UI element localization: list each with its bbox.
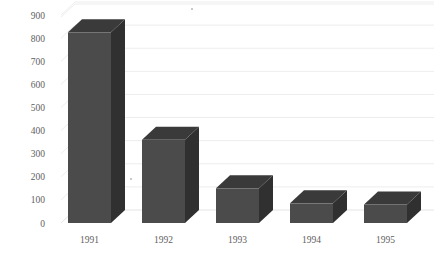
bar-front-face [68, 32, 111, 223]
bar-front-face [142, 140, 185, 223]
x-tick-label-1991: 1991 [80, 235, 99, 245]
bar-1991 [68, 19, 125, 223]
y-tick-label-300: 300 [31, 149, 46, 159]
bar-front-face [216, 188, 259, 223]
x-tick-label-1993: 1993 [228, 235, 247, 245]
y-tick-label-800: 800 [31, 34, 46, 44]
bar-1992 [142, 127, 199, 223]
y-tick-label-600: 600 [31, 80, 46, 90]
scan-speck [191, 8, 193, 10]
bar-front-face [290, 203, 333, 223]
bar-side-face [111, 19, 125, 223]
bar-1993 [216, 175, 273, 223]
chart-canvas: 0100200300400500600700800900 19911992199… [0, 0, 434, 256]
y-tick-label-900: 900 [31, 11, 46, 21]
y-tick-label-500: 500 [31, 103, 46, 113]
y-tick-label-0: 0 [40, 219, 45, 229]
bar-front-face [364, 205, 407, 223]
y-tick-label-700: 700 [31, 57, 46, 67]
scan-speck [130, 178, 132, 180]
x-tick-label-1995: 1995 [376, 235, 395, 245]
x-tick-label-1992: 1992 [154, 235, 173, 245]
bar-side-face [185, 127, 199, 223]
y-tick-label-100: 100 [31, 195, 46, 205]
y-tick-label-200: 200 [31, 172, 46, 182]
y-tick-label-400: 400 [31, 126, 46, 136]
x-tick-label-1994: 1994 [302, 235, 321, 245]
bar-chart: 0100200300400500600700800900 19911992199… [0, 0, 434, 256]
